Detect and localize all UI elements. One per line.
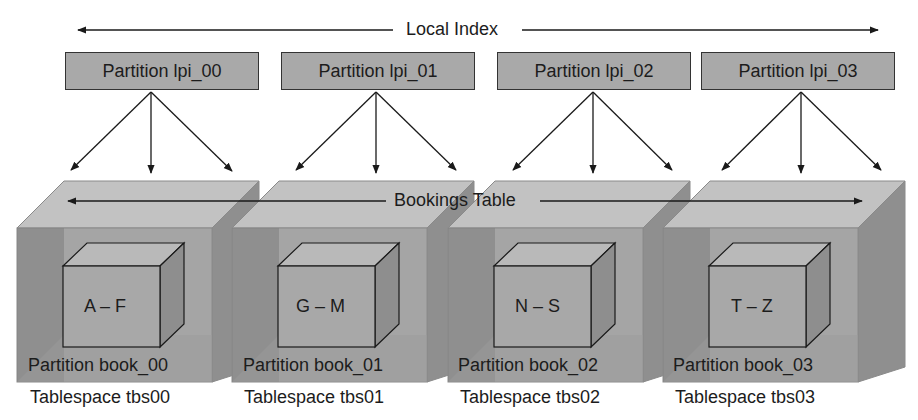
tablespace-label: Tablespace tbs00 [30, 387, 170, 408]
table-partition-label: Partition book_03 [673, 355, 813, 376]
range-label: G – M [296, 296, 345, 317]
range-label: A – F [84, 296, 126, 317]
tablespace-label: Tablespace tbs02 [460, 387, 600, 408]
tablespace-cube-tbs02 [448, 181, 690, 382]
range-label: N – S [515, 296, 560, 317]
tablespace-label: Tablespace tbs03 [675, 387, 815, 408]
table-partition-label: Partition book_00 [28, 355, 168, 376]
bookings-table-label: Bookings Table [394, 190, 516, 211]
index-partition-lpi-03: Partition lpi_03 [701, 52, 895, 90]
tablespace-cube-tbs01 [232, 181, 474, 382]
table-partition-label: Partition book_02 [458, 355, 598, 376]
index-partition-lpi-00: Partition lpi_00 [65, 52, 259, 90]
index-partition-lpi-01: Partition lpi_01 [281, 52, 475, 90]
index-to-table-arrows [71, 92, 881, 173]
index-partition-lpi-02: Partition lpi_02 [497, 52, 691, 90]
tablespace-cube-tbs00 [17, 181, 259, 382]
table-partition-label: Partition book_01 [243, 355, 383, 376]
tablespace-label: Tablespace tbs01 [244, 387, 384, 408]
local-index-label: Local Index [400, 19, 504, 40]
tablespace-cube-tbs03 [663, 181, 905, 382]
range-label: T – Z [731, 296, 773, 317]
